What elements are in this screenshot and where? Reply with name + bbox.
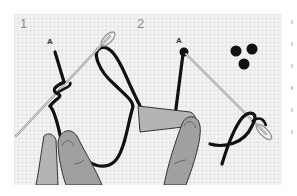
thread-icon bbox=[55, 52, 64, 82]
cropped-edge-text bbox=[291, 20, 294, 160]
french-knot-icon bbox=[231, 46, 242, 57]
finger-icon bbox=[36, 134, 58, 185]
needlework-illustration bbox=[14, 14, 282, 185]
step-2-illustration bbox=[138, 44, 274, 186]
french-knot-icon bbox=[239, 59, 250, 70]
thread-loop-icon bbox=[80, 48, 133, 166]
french-knot-icon bbox=[247, 44, 258, 55]
illustration-frame: 1 A 2 A bbox=[14, 14, 282, 185]
step-1-illustration bbox=[16, 30, 142, 185]
thumb-icon bbox=[58, 131, 102, 185]
